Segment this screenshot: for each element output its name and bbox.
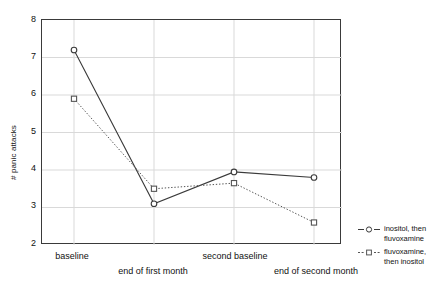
chart-legend: inositol, thenfluvoxamine fluvoxamine,th… xyxy=(357,224,441,270)
legend-label-line2: fluvoxamine xyxy=(384,234,424,243)
legend-entry-fluvoxamine-then-inositol: fluvoxamine,then inositol xyxy=(357,247,441,266)
legend-label-fluvoxamine-then-inositol: fluvoxamine,then inositol xyxy=(384,247,426,266)
x-tick-end-of-first-month: end of first month xyxy=(118,267,188,276)
legend-marker-circle-icon xyxy=(357,224,381,235)
legend-entry-inositol-then-fluvoxamine: inositol, thenfluvoxamine xyxy=(357,224,441,243)
legend-label-line2: then inositol xyxy=(384,257,424,266)
panic-attacks-line-chart: # panic attacks 8 7 6 5 4 3 2 baseline e… xyxy=(0,0,441,284)
legend-marker-square-icon xyxy=(357,247,381,258)
x-tick-baseline: baseline xyxy=(55,252,89,261)
legend-label-inositol-then-fluvoxamine: inositol, thenfluvoxamine xyxy=(384,224,426,243)
legend-label-line1: inositol, then xyxy=(384,224,426,233)
x-tick-second-baseline: second baseline xyxy=(202,252,267,261)
legend-label-line1: fluvoxamine, xyxy=(384,247,426,256)
x-tick-end-of-second-month: end of second month xyxy=(274,267,358,276)
